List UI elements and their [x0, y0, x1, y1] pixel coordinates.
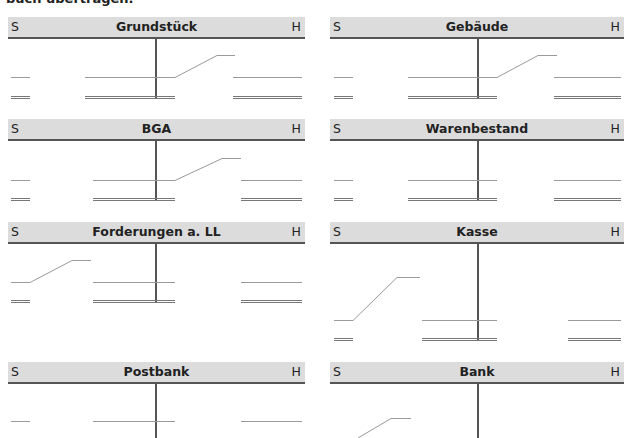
- account-title: Gebäude: [330, 19, 624, 35]
- account-header: S Postbank H: [8, 362, 305, 384]
- t-account-gebaeude: S Gebäude H: [330, 17, 624, 107]
- t-account-postbank: S Postbank H: [8, 362, 305, 438]
- credit-label: H: [292, 364, 301, 380]
- credit-label: H: [292, 121, 301, 137]
- t-account-kasse: S Kasse H: [330, 222, 624, 342]
- account-header: S Kasse H: [330, 222, 624, 244]
- account-header: S BGA H: [8, 119, 305, 141]
- account-header: S Warenbestand H: [330, 119, 624, 141]
- account-title: Kasse: [330, 224, 624, 240]
- t-account-warenbestand: S Warenbestand H: [330, 119, 624, 209]
- credit-label: H: [292, 224, 301, 240]
- account-title: Postbank: [8, 364, 305, 380]
- account-title: Warenbestand: [330, 121, 624, 137]
- credit-label: H: [611, 224, 620, 240]
- account-header: S Bank H: [330, 362, 624, 384]
- account-header: S Grundstück H: [8, 17, 305, 39]
- account-title: Forderungen a. LL: [8, 224, 305, 240]
- t-account-bga: S BGA H: [8, 119, 305, 209]
- credit-label: H: [292, 19, 301, 35]
- t-account-bank: S Bank H: [330, 362, 624, 438]
- instruction-text: buch übertragen.: [6, 0, 134, 6]
- credit-label: H: [611, 19, 620, 35]
- t-account-grundstueck: S Grundstück H: [8, 17, 305, 107]
- credit-label: H: [611, 364, 620, 380]
- credit-label: H: [611, 121, 620, 137]
- account-header: S Forderungen a. LL H: [8, 222, 305, 244]
- account-header: S Gebäude H: [330, 17, 624, 39]
- account-title: Grundstück: [8, 19, 305, 35]
- account-title: BGA: [8, 121, 305, 137]
- t-account-forderungen: S Forderungen a. LL H: [8, 222, 305, 312]
- account-title: Bank: [330, 364, 624, 380]
